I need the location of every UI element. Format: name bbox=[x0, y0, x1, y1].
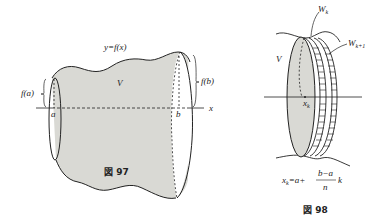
left-radius-label: f(a) bbox=[21, 88, 34, 98]
diagram-canvas: y=f(x) V f(a) f(b) x a b 図 97 bbox=[0, 0, 384, 224]
slice-k-label: Wk bbox=[318, 4, 329, 15]
figure-97: y=f(x) V f(a) f(b) x a b 図 97 bbox=[21, 42, 214, 198]
svg-text:n: n bbox=[323, 182, 328, 192]
figure-98-caption: 図 98 bbox=[303, 205, 328, 215]
point-b-label: b bbox=[176, 109, 181, 119]
slice-k1-label: Wk+1 bbox=[348, 38, 365, 49]
svg-text:b−a: b−a bbox=[318, 168, 334, 178]
axis-x-label: x bbox=[208, 103, 213, 113]
right-radius-label: f(b) bbox=[201, 76, 214, 86]
curve-label: y=f(x) bbox=[103, 42, 127, 52]
figure-97-caption: 図 97 bbox=[104, 167, 129, 177]
xk-formula: xk=a+ b−a n k bbox=[281, 168, 343, 192]
svg-text:xk=a+: xk=a+ bbox=[281, 175, 305, 186]
figure-98: Wk Wk+1 V xk xk=a+ b−a n k 図 98 bbox=[264, 4, 365, 215]
svg-text:k: k bbox=[338, 175, 343, 185]
point-a-label: a bbox=[51, 109, 56, 119]
volume-label-98: V bbox=[276, 54, 283, 64]
